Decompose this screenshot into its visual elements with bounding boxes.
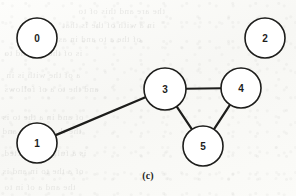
graph-node-0[interactable]: 0: [17, 18, 57, 58]
graph-canvas: 012345: [0, 0, 296, 196]
graph-edge-1-3: [55, 97, 147, 136]
node-label-5: 5: [200, 141, 206, 152]
graph-node-3[interactable]: 3: [144, 68, 186, 110]
node-label-4: 4: [238, 83, 244, 94]
graph-edge-4-5: [213, 104, 230, 130]
node-label-1: 1: [34, 138, 40, 149]
graph-edge-3-5: [176, 106, 192, 131]
graph-node-5[interactable]: 5: [183, 126, 223, 166]
graph-node-1[interactable]: 1: [17, 123, 57, 163]
graph-node-4[interactable]: 4: [221, 68, 261, 108]
node-label-0: 0: [34, 33, 40, 44]
node-label-3: 3: [162, 84, 168, 95]
nodes-group: 012345: [17, 18, 285, 166]
graph-figure: the are and this of toin a with of the i…: [0, 0, 296, 196]
figure-caption: (c): [0, 170, 296, 181]
graph-node-2[interactable]: 2: [245, 18, 285, 58]
node-label-2: 2: [262, 33, 268, 44]
